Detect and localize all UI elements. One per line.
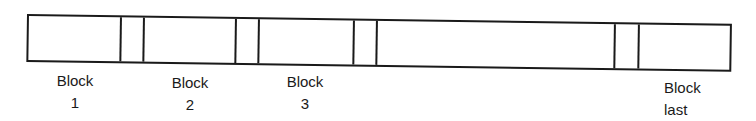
block-1-label: Block 1 — [50, 70, 100, 114]
gap-divider — [234, 19, 237, 63]
gap-divider — [637, 25, 640, 69]
block-last-label: Block last — [664, 77, 714, 121]
block-3-label: Block 3 — [280, 71, 330, 115]
block-label-text: Block — [165, 72, 215, 94]
block-label-number: 3 — [280, 93, 330, 115]
block-2-label: Block 2 — [165, 72, 215, 116]
gap-divider — [375, 21, 378, 65]
block-label-number: 1 — [50, 92, 100, 114]
gap-divider — [352, 21, 355, 65]
block-label-number: last — [664, 99, 714, 121]
block-label-text: Block — [50, 70, 100, 92]
gap-divider — [119, 17, 122, 61]
block-label-number: 2 — [165, 94, 215, 116]
gap-divider — [613, 24, 616, 68]
gap-divider — [142, 18, 145, 62]
block-label-text: Block — [280, 71, 330, 93]
block-sequence-strip — [26, 14, 732, 72]
gap-divider — [257, 19, 260, 63]
block-label-text: Block — [664, 77, 714, 99]
